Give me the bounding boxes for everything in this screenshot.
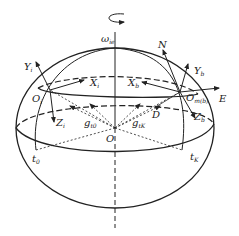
label-t0: t0 (32, 154, 40, 165)
label-Xi: Xi (90, 78, 99, 89)
label-N: N (158, 40, 167, 50)
label-Yi: Yi (24, 62, 33, 73)
axis-Xi (50, 80, 84, 90)
label-Yb: Yb (194, 66, 204, 77)
meridian-left (35, 48, 115, 150)
label-Oi: Oi (32, 94, 42, 105)
label-g-t0: gt0 (84, 118, 97, 129)
label-Zi: Zi (56, 118, 65, 129)
label-omega-ie: ωie (101, 34, 115, 45)
label-Xb: Xb (128, 78, 139, 89)
label-E: E (219, 94, 226, 104)
latitude-back (38, 77, 198, 94)
rotation-arrow-icon (109, 14, 124, 22)
label-O: O (106, 134, 114, 144)
label-Omb: Om(b) (186, 93, 208, 104)
axis-N (163, 50, 180, 92)
label-Zb: Zb (194, 112, 205, 123)
axis-Zi (50, 90, 54, 122)
label-tK: tK (190, 152, 199, 163)
label-D: D (152, 110, 160, 120)
label-g-tK: gtK (132, 118, 145, 129)
ellipsoid-diagram: ωie N E Yi Xi Zi Oi Yb Xb Zb Om(b) D O g… (0, 0, 239, 236)
